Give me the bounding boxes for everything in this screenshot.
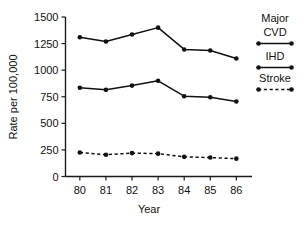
x-tick-label-84: 84 bbox=[178, 184, 190, 196]
y-tick-label-1500: 1500 bbox=[34, 11, 58, 23]
data-point-ihd-83 bbox=[156, 79, 161, 84]
x-tick-label-83: 83 bbox=[152, 184, 164, 196]
data-point-major-cvd-81 bbox=[104, 39, 109, 44]
data-point-stroke-83 bbox=[156, 151, 161, 156]
y-tick-label-1250: 1250 bbox=[34, 38, 58, 50]
chart-background bbox=[0, 0, 299, 225]
legend-label-ihd: IHD bbox=[266, 50, 285, 62]
data-point-ihd-84 bbox=[182, 94, 187, 99]
data-point-major-cvd-85 bbox=[208, 48, 213, 53]
data-point-major-cvd-83 bbox=[156, 25, 161, 30]
chart-figure: 0250500750100012501500 80818283848586 Ye… bbox=[0, 0, 299, 225]
legend-label-stroke: Stroke bbox=[259, 72, 291, 84]
data-point-major-cvd-84 bbox=[182, 47, 187, 52]
x-tick-label-86: 86 bbox=[230, 184, 242, 196]
data-point-stroke-84 bbox=[182, 155, 187, 160]
y-tick-label-500: 500 bbox=[40, 117, 58, 129]
x-tick-label-85: 85 bbox=[204, 184, 216, 196]
data-point-major-cvd-80 bbox=[78, 35, 83, 40]
y-tick-label-1000: 1000 bbox=[34, 64, 58, 76]
data-point-major-cvd-86 bbox=[234, 56, 239, 61]
y-tick-label-250: 250 bbox=[40, 144, 58, 156]
x-tick-label-82: 82 bbox=[126, 184, 138, 196]
line-chart-svg: 0250500750100012501500 80818283848586 Ye… bbox=[0, 0, 299, 225]
data-point-stroke-80 bbox=[78, 150, 83, 155]
data-point-ihd-85 bbox=[208, 95, 213, 100]
data-point-ihd-86 bbox=[234, 99, 239, 104]
data-point-ihd-82 bbox=[130, 83, 135, 88]
legend-label-major-cvd-line1: Major bbox=[261, 12, 289, 24]
y-tick-label-750: 750 bbox=[40, 91, 58, 103]
data-point-ihd-80 bbox=[78, 85, 83, 90]
data-point-stroke-86 bbox=[234, 156, 239, 161]
legend-label-major-cvd-line2: CVD bbox=[263, 26, 286, 38]
data-point-stroke-82 bbox=[130, 151, 135, 156]
x-axis-title: Year bbox=[138, 203, 161, 215]
data-point-ihd-81 bbox=[104, 88, 109, 93]
x-tick-label-80: 80 bbox=[74, 184, 86, 196]
data-point-stroke-81 bbox=[104, 152, 109, 157]
data-point-major-cvd-82 bbox=[130, 32, 135, 37]
y-tick-label-0: 0 bbox=[52, 171, 58, 183]
y-axis-title: Rate per 100,000 bbox=[7, 54, 19, 139]
x-tick-label-81: 81 bbox=[100, 184, 112, 196]
data-point-stroke-85 bbox=[208, 155, 213, 160]
